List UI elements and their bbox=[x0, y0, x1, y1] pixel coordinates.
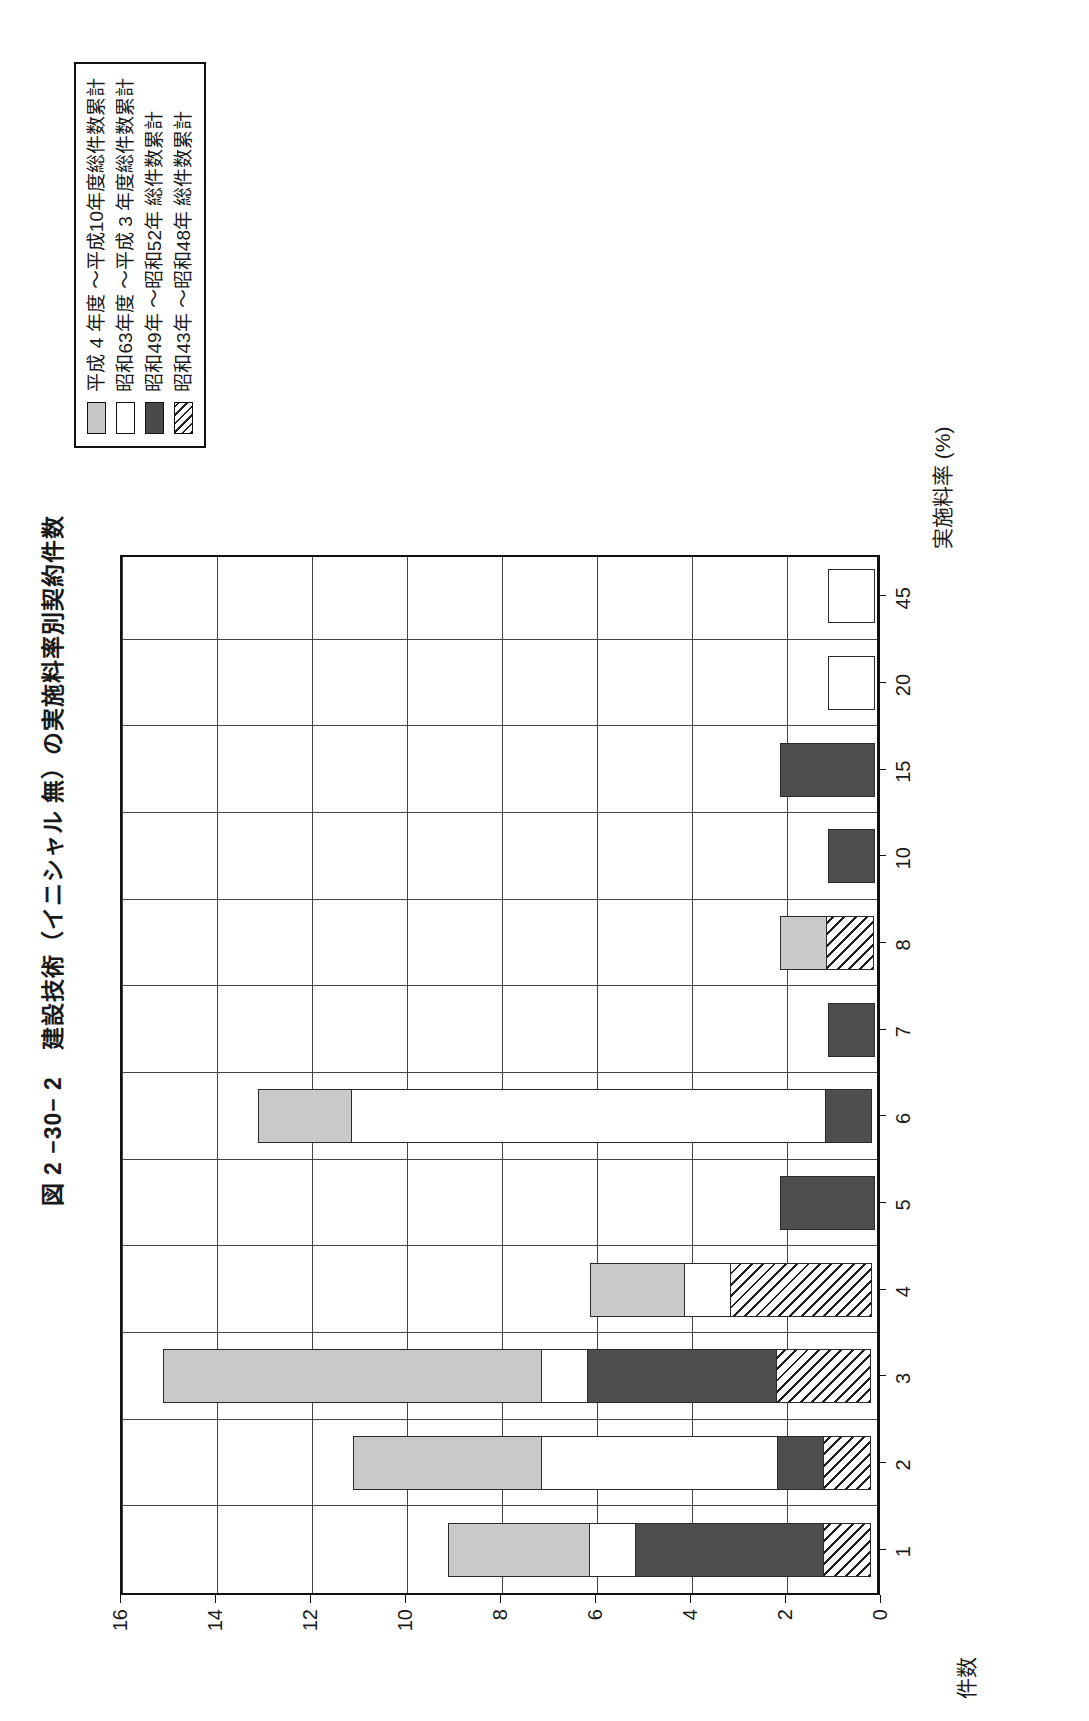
x-tick-mark bbox=[877, 1202, 886, 1203]
x-tick-label: 7 bbox=[892, 1026, 915, 1037]
bar-segment bbox=[823, 1436, 871, 1490]
legend-item-label: 昭和43年 ～昭和48年 総件数累計 bbox=[174, 111, 193, 392]
x-tick-label: 4 bbox=[892, 1286, 915, 1297]
bar-segment bbox=[730, 1263, 873, 1317]
bar-segment bbox=[776, 1349, 871, 1403]
bar-segment bbox=[823, 1523, 871, 1577]
x-tick-label: 15 bbox=[892, 761, 915, 783]
y-tick-label: 16 bbox=[109, 1609, 132, 1631]
table-row[interactable] bbox=[450, 1523, 878, 1577]
category-gridline bbox=[122, 1505, 877, 1506]
light-gray-swatch-icon bbox=[87, 402, 106, 434]
bar-segment bbox=[587, 1349, 777, 1403]
legend-item: 昭和43年 ～昭和48年 総件数累計 bbox=[174, 78, 193, 434]
bar-segment bbox=[780, 916, 828, 970]
bar-segment bbox=[541, 1349, 589, 1403]
y-tick-mark bbox=[690, 1595, 691, 1603]
x-tick-mark bbox=[877, 769, 886, 770]
x-tick-mark bbox=[877, 855, 886, 856]
table-row[interactable] bbox=[355, 1436, 878, 1490]
x-tick-mark bbox=[877, 1115, 886, 1116]
table-row[interactable] bbox=[165, 1349, 878, 1403]
x-tick-label: 1 bbox=[892, 1546, 915, 1557]
hatch-swatch-icon bbox=[174, 402, 193, 434]
x-tick-mark bbox=[877, 1462, 886, 1463]
table-row[interactable] bbox=[782, 743, 877, 797]
y-axis-title: 件数 bbox=[950, 1657, 980, 1699]
x-tick-label: 5 bbox=[892, 1199, 915, 1210]
legend-item-label: 平成 4 年度 ～平成10年度総件数累計 bbox=[87, 78, 106, 392]
category-gridline bbox=[122, 985, 877, 986]
table-row[interactable] bbox=[830, 569, 878, 623]
y-tick-mark bbox=[120, 1595, 121, 1603]
y-tick-label: 8 bbox=[489, 1609, 512, 1620]
bar-segment bbox=[353, 1436, 543, 1490]
figure-title-text: 建設技術（イニシャル 無）の実施料率別契約件数 bbox=[40, 515, 66, 1050]
x-tick-mark bbox=[877, 682, 886, 683]
y-tick-mark bbox=[785, 1595, 786, 1603]
bar-segment bbox=[541, 1436, 779, 1490]
x-tick-mark bbox=[877, 1289, 886, 1290]
bar-segment bbox=[828, 656, 876, 710]
bar-segment bbox=[684, 1263, 732, 1317]
x-axis-title: 実施料率 (%) bbox=[926, 427, 956, 550]
bar-segment bbox=[780, 743, 875, 797]
table-row[interactable] bbox=[830, 1003, 878, 1057]
category-gridline bbox=[122, 812, 877, 813]
bar-segment bbox=[635, 1523, 825, 1577]
dark-swatch-icon bbox=[145, 402, 164, 434]
y-gridline bbox=[312, 557, 313, 1593]
y-tick-label: 6 bbox=[584, 1609, 607, 1620]
y-tick-label: 2 bbox=[774, 1609, 797, 1620]
y-gridline bbox=[217, 557, 218, 1593]
category-gridline bbox=[122, 1419, 877, 1420]
x-tick-mark bbox=[877, 595, 886, 596]
white-swatch-icon bbox=[116, 402, 135, 434]
figure-number: 図 2 −30− 2 bbox=[40, 1076, 66, 1206]
y-tick-mark bbox=[215, 1595, 216, 1603]
category-gridline bbox=[122, 725, 877, 726]
x-tick-mark bbox=[877, 1549, 886, 1550]
table-row[interactable] bbox=[830, 829, 878, 883]
y-tick-mark bbox=[500, 1595, 501, 1603]
table-row[interactable] bbox=[260, 1089, 878, 1143]
x-tick-label: 3 bbox=[892, 1373, 915, 1384]
legend-item-label: 昭和49年 ～昭和52年 総件数累計 bbox=[145, 111, 164, 392]
table-row[interactable] bbox=[830, 656, 878, 710]
y-tick-label: 14 bbox=[204, 1609, 227, 1631]
x-tick-label: 10 bbox=[892, 847, 915, 869]
bar-segment bbox=[590, 1263, 685, 1317]
legend-item: 平成 4 年度 ～平成10年度総件数累計 bbox=[87, 78, 106, 434]
rotated-figure-canvas: 図 2 −30− 2建設技術（イニシャル 無）の実施料率別契約件数 平成 4 年… bbox=[0, 0, 1089, 1721]
bar-segment bbox=[777, 1436, 825, 1490]
x-tick-label: 20 bbox=[892, 674, 915, 696]
bar-segment bbox=[828, 829, 876, 883]
legend-item: 昭和63年度 ～平成 3 年度総件数累計 bbox=[116, 78, 135, 434]
x-tick-label: 6 bbox=[892, 1113, 915, 1124]
bar-segment bbox=[828, 1003, 876, 1057]
category-gridline bbox=[122, 1332, 877, 1333]
y-tick-mark bbox=[595, 1595, 596, 1603]
y-tick-label: 10 bbox=[394, 1609, 417, 1631]
chart-legend: 平成 4 年度 ～平成10年度総件数累計 昭和63年度 ～平成 3 年度総件数累… bbox=[74, 62, 206, 448]
bar-segment bbox=[589, 1523, 637, 1577]
table-row[interactable] bbox=[782, 1176, 877, 1230]
y-gridline bbox=[122, 557, 123, 1593]
bar-segment bbox=[825, 1089, 873, 1143]
x-tick-mark bbox=[877, 1375, 886, 1376]
category-gridline bbox=[122, 1245, 877, 1246]
plot-area bbox=[120, 555, 880, 1595]
x-tick-label: 8 bbox=[892, 939, 915, 950]
x-tick-label: 2 bbox=[892, 1459, 915, 1470]
table-row[interactable] bbox=[592, 1263, 877, 1317]
bar-segment bbox=[828, 569, 876, 623]
figure-title: 図 2 −30− 2建設技術（イニシャル 無）の実施料率別契約件数 bbox=[34, 0, 68, 1721]
bar-segment bbox=[780, 1176, 875, 1230]
y-tick-mark bbox=[405, 1595, 406, 1603]
plot-wrapper: 02468101214161234567810152045 件数 実施料率 (%… bbox=[120, 555, 880, 1595]
x-tick-mark bbox=[877, 1029, 886, 1030]
legend-item-label: 昭和63年度 ～平成 3 年度総件数累計 bbox=[116, 78, 135, 392]
y-tick-label: 4 bbox=[679, 1609, 702, 1620]
category-gridline bbox=[122, 639, 877, 640]
table-row[interactable] bbox=[782, 916, 877, 970]
